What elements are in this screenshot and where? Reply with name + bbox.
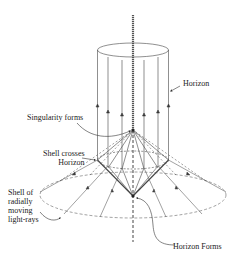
shell-of-light-rays-label: Shell of radially moving light-rays [8, 188, 39, 224]
shell-crosses-horizon-label: Shell crosses Horizon [43, 149, 85, 167]
singularity-forms-label: Singularity forms [27, 113, 83, 122]
diagram-canvas: Horizon Singularity forms Shell crosses … [0, 0, 238, 261]
horizon-forms-label: Horizon Forms [173, 242, 222, 251]
horizon-forms-point [131, 194, 134, 197]
light-ray-shell [40, 130, 226, 218]
horizon-label: Horizon [183, 79, 209, 88]
singularity-point [131, 128, 134, 131]
